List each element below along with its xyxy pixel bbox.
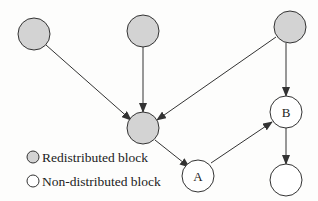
edges (46, 37, 286, 167)
block-diagram: A B Redistributed block Non-distributed … (0, 0, 318, 201)
edge-center-to-a (155, 140, 189, 167)
legend-redistributed-label: Redistributed block (42, 150, 148, 165)
node-top-right (274, 11, 306, 43)
node-top-left (18, 18, 50, 50)
edge-top-left-to-center (46, 45, 131, 120)
legend-redistributed-swatch (27, 151, 39, 163)
node-a-label: A (193, 169, 203, 184)
legend-non-distributed-label: Non-distributed block (42, 174, 161, 189)
node-center (127, 112, 159, 144)
legend: Redistributed block Non-distributed bloc… (27, 150, 161, 189)
edge-top-right-to-center (157, 37, 276, 120)
legend-non-distributed-swatch (27, 175, 39, 187)
diagram-svg: A B Redistributed block Non-distributed … (0, 0, 318, 201)
node-b-label: B (282, 105, 291, 120)
edge-a-to-b (211, 122, 272, 163)
node-top-middle (127, 15, 159, 47)
nodes (18, 11, 306, 196)
node-bottom-right (270, 164, 302, 196)
